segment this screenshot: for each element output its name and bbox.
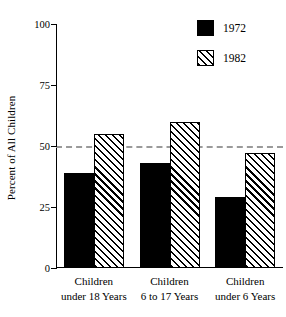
x-category-label-0: Childrenunder 18 Years (56, 274, 132, 303)
x-category-label-line2: 6 to 17 Years (132, 289, 208, 304)
x-category-label-1: Children6 to 17 Years (132, 274, 208, 303)
y-tick-mark (51, 24, 57, 25)
legend-item-1982: 1982 (197, 46, 246, 70)
x-category-label-line1: Children (56, 274, 132, 289)
bar-1972-0 (64, 173, 94, 268)
y-tick-mark (51, 268, 57, 269)
bar-1982-1 (170, 122, 200, 268)
y-axis-title: Percent of All Children (0, 0, 22, 317)
bar-chart: Percent of All Children 0255075100 Child… (0, 0, 286, 317)
y-axis-tick-labels: 0255075100 (22, 0, 52, 317)
legend-swatch-hatch-icon (197, 50, 214, 66)
y-tick-label: 25 (40, 202, 51, 213)
x-category-label-line2: under 6 Years (207, 289, 283, 304)
y-tick-label: 50 (40, 141, 51, 152)
legend-label-1972: 1972 (223, 22, 246, 34)
legend-swatch-solid-icon (197, 20, 214, 36)
y-axis-title-text: Percent of All Children (5, 96, 17, 201)
bar-1982-2 (245, 153, 275, 268)
x-category-label-line2: under 18 Years (56, 289, 132, 304)
bar-1972-1 (140, 163, 170, 268)
x-category-label-line1: Children (132, 274, 208, 289)
bar-1982-0 (94, 134, 124, 268)
legend-item-1972: 1972 (197, 16, 246, 40)
x-category-label-2: Childrenunder 6 Years (207, 274, 283, 303)
y-tick-mark (51, 85, 57, 86)
x-axis-category-labels: Childrenunder 18 YearsChildren6 to 17 Ye… (56, 274, 283, 316)
x-category-label-line1: Children (207, 274, 283, 289)
y-tick-mark (51, 207, 57, 208)
plot-area (56, 24, 283, 268)
bar-1972-2 (215, 197, 245, 268)
legend-label-1982: 1982 (223, 52, 246, 64)
y-tick-label: 100 (34, 19, 50, 30)
y-tick-label: 75 (40, 80, 51, 91)
legend: 1972 1982 (197, 16, 246, 76)
y-tick-label: 0 (45, 263, 50, 274)
y-tick-mark (51, 146, 57, 147)
